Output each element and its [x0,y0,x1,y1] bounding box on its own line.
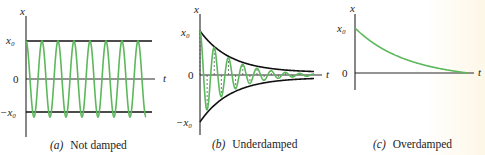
panel-underdamped: x t x₀ 0 −x₀ (b) Underdamped [176,3,330,151]
tick-x0: x₀ [5,34,15,46]
caption-text: Underdamped [232,138,297,151]
tick-neg-x0: −x₀ [0,106,16,118]
tick-zero: 0 [13,73,19,85]
tick-neg-x0: −x₀ [176,116,192,128]
panel-not-damped: x t x₀ 0 −x₀ (a) Not damped [0,5,167,152]
caption-letter: (c) [373,138,386,151]
caption-text: Overdamped [393,138,453,151]
tick-zero: 0 [342,67,348,79]
y-axis-label: x [349,2,355,14]
caption: (c) Overdamped [373,138,452,151]
tick-x0: x₀ [336,22,346,34]
panel-overdamped: x t x₀ 0 (c) Overdamped [336,2,482,151]
x-axis-label: t [163,72,167,84]
y-axis-label: x [193,3,199,15]
caption-letter: (a) [50,139,64,152]
tick-x0: x₀ [180,26,190,38]
lower-envelope [200,79,314,122]
tick-zero: 0 [188,69,194,81]
caption-letter: (b) [212,138,226,151]
caption: (b) Underdamped [212,138,298,151]
caption: (a) Not damped [50,139,127,152]
caption-text: Not damped [70,139,127,152]
overdamped-decay-curve [355,28,468,73]
x-axis-label: t [326,68,330,80]
damping-figure: x t x₀ 0 −x₀ (a) Not damped x t x₀ 0 −x₀… [0,0,485,155]
y-axis-label: x [19,5,25,17]
x-axis-label: t [478,66,482,78]
